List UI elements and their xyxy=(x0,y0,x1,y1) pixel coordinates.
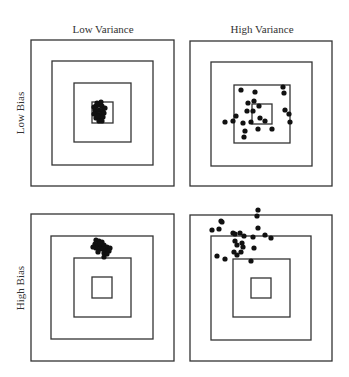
shot-dot xyxy=(280,84,285,89)
target-ring-2 xyxy=(211,62,312,166)
shot-dot xyxy=(282,107,287,112)
shot-dot xyxy=(232,231,237,236)
shot-dot xyxy=(287,119,292,124)
shot-dot xyxy=(268,235,273,240)
shot-dot xyxy=(222,256,227,261)
shot-dot xyxy=(214,253,219,258)
shot-dot xyxy=(101,254,106,259)
shot-dot xyxy=(255,225,260,230)
shot-dot xyxy=(230,118,235,123)
shot-dot xyxy=(241,233,246,238)
shot-dot xyxy=(99,118,104,123)
row-label-high-bias: High Bias xyxy=(14,266,26,310)
shot-dot xyxy=(222,119,227,124)
shot-dot xyxy=(250,108,255,113)
shot-dot xyxy=(234,252,239,257)
shot-dot xyxy=(257,115,262,120)
shot-dot xyxy=(241,134,246,139)
shot-dot xyxy=(281,90,286,95)
panel-high-bias-low-variance xyxy=(31,214,174,361)
shot-dot xyxy=(250,234,255,239)
shot-dot xyxy=(251,98,256,103)
shot-dot xyxy=(97,240,102,245)
shot-dot xyxy=(251,245,256,250)
target-ring-3 xyxy=(74,258,131,317)
shot-dot xyxy=(209,227,214,232)
shot-dot xyxy=(234,242,239,247)
shot-dot xyxy=(269,126,274,131)
shot-dot xyxy=(262,118,267,123)
column-label-high-variance: High Variance xyxy=(230,23,293,35)
shot-dot xyxy=(248,119,253,124)
shot-dot xyxy=(98,99,103,104)
shot-dot xyxy=(238,87,243,92)
shot-dot xyxy=(286,111,291,116)
target-panels xyxy=(31,40,332,361)
shot-dot xyxy=(219,219,224,224)
target-ring-4 xyxy=(92,277,112,298)
shot-dot xyxy=(95,113,100,118)
shot-dot xyxy=(254,213,259,218)
panel-low-bias-low-variance xyxy=(31,40,174,186)
shot-dot xyxy=(95,249,100,254)
shot-dot xyxy=(262,232,267,237)
shot-dot xyxy=(91,104,96,109)
target-ring-3 xyxy=(233,259,290,317)
shot-dot xyxy=(244,108,249,113)
shot-dot xyxy=(102,105,107,110)
column-label-low-variance: Low Variance xyxy=(72,23,133,35)
shot-dot xyxy=(256,103,261,108)
target-ring-4 xyxy=(251,278,271,298)
shot-dot xyxy=(242,128,247,133)
shot-dot xyxy=(90,244,95,249)
shot-dot xyxy=(216,226,221,231)
shot-dot xyxy=(248,258,253,263)
shot-dot xyxy=(240,244,245,249)
target-ring-2 xyxy=(211,236,311,340)
target-ring-4 xyxy=(252,104,272,124)
panel-high-bias-high-variance xyxy=(190,207,332,361)
shot-dot xyxy=(240,120,245,125)
bias-variance-diagram: Low Variance High Variance Low Bias High… xyxy=(0,0,349,377)
shot-dot xyxy=(252,89,257,94)
shot-dot xyxy=(255,126,260,131)
shot-dot xyxy=(255,207,260,212)
row-label-low-bias: Low Bias xyxy=(14,92,26,134)
shot-dot xyxy=(233,113,238,118)
shot-dot xyxy=(245,100,250,105)
panel-low-bias-high-variance xyxy=(190,41,332,186)
